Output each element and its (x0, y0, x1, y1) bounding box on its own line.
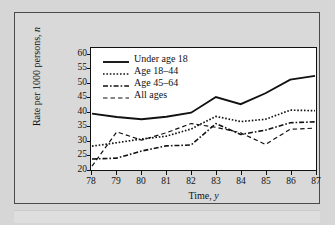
legend-item-label: Age 45–64 (134, 77, 178, 88)
x-tick-label: 85 (255, 176, 277, 186)
x-tick-label: 84 (230, 176, 252, 186)
legend-line-sample (103, 65, 129, 75)
x-tick-label: 78 (80, 176, 102, 186)
figure-page: 202530354045505560 78798081828384858687 … (0, 0, 335, 225)
x-tick-label: 79 (105, 176, 127, 186)
y-tick-label: 50 (67, 78, 87, 87)
x-tick-mark (266, 171, 267, 175)
x-tick-mark (216, 171, 217, 175)
figure-box: 202530354045505560 78798081828384858687 … (14, 12, 320, 204)
y-tick-label: 20 (67, 165, 87, 174)
x-tick-mark (291, 171, 292, 175)
y-tick-label: 35 (67, 121, 87, 130)
y-tick-label: 55 (67, 63, 87, 72)
legend-item-1: Age 18–44 (103, 64, 223, 76)
x-axis-variable: y (214, 190, 218, 201)
y-tick-label: 60 (67, 49, 87, 58)
y-axis: 202530354045505560 (65, 47, 87, 171)
x-tick-mark (316, 171, 317, 175)
x-tick-label: 80 (130, 176, 152, 186)
legend-line-sample (103, 89, 129, 99)
legend-line-sample (103, 77, 129, 87)
x-axis: 78798081828384858687 (90, 173, 317, 189)
series-line-1 (92, 110, 315, 146)
chart-legend: Under age 18Age 18–44Age 45–64All ages (103, 52, 223, 100)
legend-item-label: All ages (134, 89, 167, 100)
x-tick-label: 86 (280, 176, 302, 186)
legend-line-sample (103, 53, 129, 63)
y-tick-label: 30 (67, 136, 87, 145)
x-tick-mark (191, 171, 192, 175)
x-tick-mark (241, 171, 242, 175)
legend-item-2: Age 45–64 (103, 76, 223, 88)
x-tick-mark (141, 171, 142, 175)
x-tick-label: 87 (305, 176, 327, 186)
legend-item-3: All ages (103, 88, 223, 100)
x-tick-label: 83 (205, 176, 227, 186)
caption-band (14, 210, 320, 223)
x-tick-mark (91, 171, 92, 175)
y-axis-title: Rate per 1000 persons, n (31, 12, 42, 142)
y-tick-label: 40 (67, 107, 87, 116)
series-line-3 (92, 124, 315, 167)
y-tick-label: 25 (67, 150, 87, 159)
legend-item-0: Under age 18 (103, 52, 223, 64)
series-line-2 (92, 122, 315, 159)
x-tick-label: 82 (180, 176, 202, 186)
y-tick-label: 45 (67, 92, 87, 101)
x-tick-label: 81 (155, 176, 177, 186)
x-tick-mark (116, 171, 117, 175)
y-axis-variable: n (31, 27, 42, 32)
legend-item-label: Age 18–44 (134, 65, 178, 76)
legend-item-label: Under age 18 (134, 53, 188, 64)
x-tick-mark (166, 171, 167, 175)
x-axis-title: Time, y (90, 190, 317, 201)
